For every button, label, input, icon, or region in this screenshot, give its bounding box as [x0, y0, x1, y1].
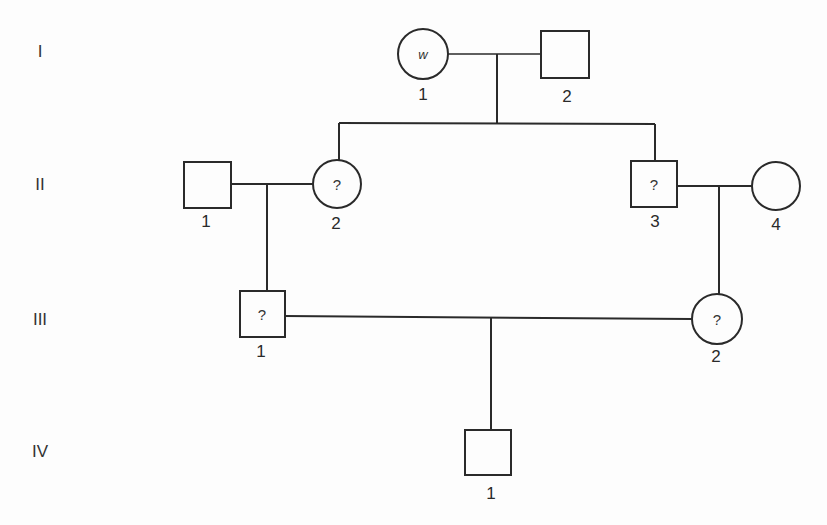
- individual-IV-1: [465, 430, 511, 475]
- individual-I-2: [541, 31, 589, 78]
- mating-line-III: [285, 316, 692, 319]
- number-II-1: 1: [201, 212, 210, 232]
- number-IV-1: 1: [486, 484, 495, 504]
- individual-II-4: [752, 162, 800, 210]
- individual-II-1: [184, 162, 231, 208]
- generation-label-IV: IV: [32, 442, 48, 462]
- generation-label-II: II: [35, 175, 44, 195]
- pedigree-chart: [0, 0, 827, 525]
- generation-label-I: I: [38, 42, 43, 62]
- number-I-2: 2: [562, 87, 571, 107]
- number-III-1: 1: [256, 342, 265, 362]
- mark-III-1: ?: [258, 306, 266, 323]
- number-II-4: 4: [771, 215, 780, 235]
- mark-II-2: ?: [333, 176, 341, 193]
- mark-III-2: ?: [713, 311, 721, 328]
- number-II-2: 2: [331, 214, 340, 234]
- number-III-2: 2: [711, 347, 720, 367]
- number-II-3: 3: [650, 212, 659, 232]
- number-I-1: 1: [418, 85, 427, 105]
- sibship-line-II: [339, 123, 655, 124]
- mark-I-1: w: [418, 47, 427, 62]
- mark-II-3: ?: [650, 176, 658, 193]
- generation-label-III: III: [33, 310, 47, 330]
